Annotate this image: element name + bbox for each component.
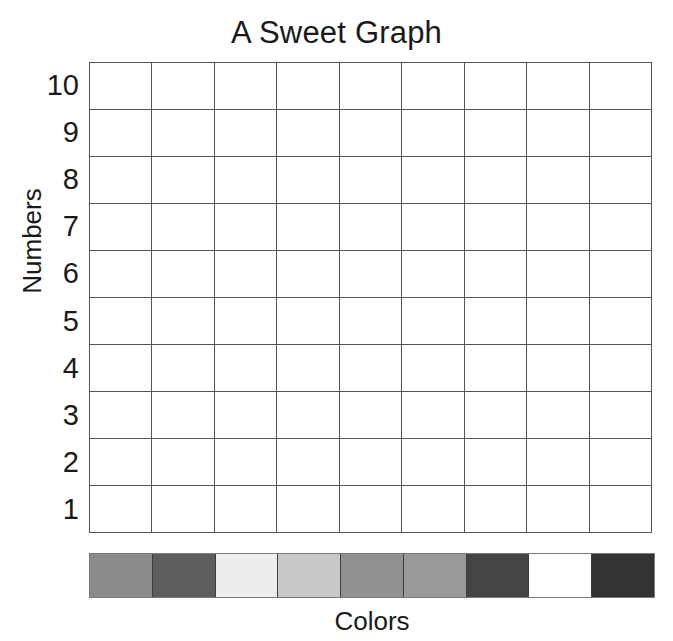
swatch-3 [216, 554, 279, 597]
grid-cell[interactable] [527, 345, 589, 392]
grid-cell[interactable] [152, 110, 214, 157]
grid-cell[interactable] [527, 110, 589, 157]
swatch-6 [404, 554, 467, 597]
grid-cell[interactable] [590, 486, 652, 533]
grid-cell[interactable] [215, 392, 277, 439]
grid-cell[interactable] [277, 110, 339, 157]
grid-cell[interactable] [215, 486, 277, 533]
grid-cell[interactable] [152, 439, 214, 486]
grid-cell[interactable] [340, 157, 402, 204]
grid-cell[interactable] [527, 63, 589, 110]
grid-cell[interactable] [590, 204, 652, 251]
grid-cell[interactable] [465, 345, 527, 392]
grid-cell[interactable] [527, 486, 589, 533]
grid-cell[interactable] [465, 392, 527, 439]
grid-cell[interactable] [402, 110, 464, 157]
grid-cell[interactable] [340, 110, 402, 157]
grid-row [90, 486, 652, 533]
grid-cell[interactable] [402, 298, 464, 345]
grid-cell[interactable] [152, 345, 214, 392]
grid-cell[interactable] [465, 298, 527, 345]
grid-cell[interactable] [527, 157, 589, 204]
grid-cell[interactable] [340, 251, 402, 298]
grid-cell[interactable] [215, 157, 277, 204]
grid-cell[interactable] [402, 251, 464, 298]
grid-cell[interactable] [527, 251, 589, 298]
grid-cell[interactable] [152, 63, 214, 110]
grid-row [90, 439, 652, 486]
grid-cell[interactable] [340, 204, 402, 251]
grid-cell[interactable] [90, 63, 152, 110]
grid-cell[interactable] [277, 157, 339, 204]
grid-cell[interactable] [465, 251, 527, 298]
grid-cell[interactable] [277, 486, 339, 533]
grid-cell[interactable] [590, 157, 652, 204]
grid-cell[interactable] [590, 251, 652, 298]
swatch-8 [529, 554, 592, 597]
grid-cell[interactable] [402, 204, 464, 251]
grid-cell[interactable] [340, 345, 402, 392]
grid-cell[interactable] [465, 157, 527, 204]
grid-cell[interactable] [340, 439, 402, 486]
grid-cell[interactable] [402, 345, 464, 392]
grid-cell[interactable] [402, 392, 464, 439]
grid-cell[interactable] [215, 63, 277, 110]
grid-cell[interactable] [590, 110, 652, 157]
grid-cell[interactable] [277, 63, 339, 110]
grid-cell[interactable] [465, 204, 527, 251]
grid-cell[interactable] [152, 157, 214, 204]
grid-cell[interactable] [90, 486, 152, 533]
grid-cell[interactable] [152, 251, 214, 298]
grid-cell[interactable] [90, 251, 152, 298]
grid-cell[interactable] [402, 63, 464, 110]
grid-cell[interactable] [90, 157, 152, 204]
grid-cell[interactable] [590, 298, 652, 345]
plot-grid[interactable] [89, 62, 652, 533]
grid-cell[interactable] [90, 110, 152, 157]
grid-cell[interactable] [90, 345, 152, 392]
grid-cell[interactable] [340, 486, 402, 533]
grid-cell[interactable] [340, 392, 402, 439]
grid-cell[interactable] [465, 439, 527, 486]
grid-cell[interactable] [215, 110, 277, 157]
grid-cell[interactable] [402, 439, 464, 486]
grid-cell[interactable] [340, 298, 402, 345]
grid-cell[interactable] [277, 392, 339, 439]
grid-cell[interactable] [215, 251, 277, 298]
grid-cell[interactable] [465, 63, 527, 110]
grid-cell[interactable] [215, 204, 277, 251]
grid-cell[interactable] [152, 392, 214, 439]
grid-cell[interactable] [215, 345, 277, 392]
grid-cell[interactable] [402, 157, 464, 204]
grid-cell[interactable] [527, 204, 589, 251]
grid-cell[interactable] [277, 439, 339, 486]
y-tick-label: 7 [38, 203, 84, 250]
grid-cell[interactable] [215, 439, 277, 486]
grid-cell[interactable] [215, 298, 277, 345]
grid-cell[interactable] [527, 392, 589, 439]
grid-cell[interactable] [465, 110, 527, 157]
swatch-7 [467, 554, 530, 597]
grid-cell[interactable] [277, 298, 339, 345]
grid-cell[interactable] [590, 392, 652, 439]
swatch-9 [592, 554, 654, 597]
grid-cell[interactable] [90, 392, 152, 439]
grid-cell[interactable] [90, 439, 152, 486]
grid-cell[interactable] [152, 298, 214, 345]
grid-cell[interactable] [590, 345, 652, 392]
grid-cell[interactable] [590, 439, 652, 486]
grid-cell[interactable] [590, 63, 652, 110]
grid-cell[interactable] [152, 486, 214, 533]
grid-cell[interactable] [277, 345, 339, 392]
grid-cell[interactable] [340, 63, 402, 110]
y-tick-label: 5 [38, 297, 84, 344]
grid-cell[interactable] [152, 204, 214, 251]
grid-cell[interactable] [90, 298, 152, 345]
grid-cell[interactable] [465, 486, 527, 533]
grid-cell[interactable] [277, 251, 339, 298]
grid-cell[interactable] [527, 439, 589, 486]
grid-cell[interactable] [277, 204, 339, 251]
grid-cell[interactable] [90, 204, 152, 251]
grid-cell[interactable] [402, 486, 464, 533]
grid-cell[interactable] [527, 298, 589, 345]
